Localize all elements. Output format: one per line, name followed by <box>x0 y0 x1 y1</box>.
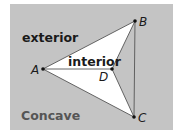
diagram-caption: Concave <box>21 108 80 123</box>
interior-label: interior <box>68 54 122 69</box>
vertex-a-dot <box>41 67 45 71</box>
vertex-b-dot <box>133 19 137 23</box>
vertex-label-c: C <box>138 111 147 125</box>
exterior-label: exterior <box>22 30 79 45</box>
concave-polygon-diagram: A B D C exterior interior Concave <box>0 0 178 136</box>
vertex-label-d: D <box>99 70 108 84</box>
vertex-label-a: A <box>30 63 39 77</box>
vertex-label-b: B <box>139 15 147 29</box>
vertex-c-dot <box>132 115 136 119</box>
segment-bc <box>134 21 135 117</box>
